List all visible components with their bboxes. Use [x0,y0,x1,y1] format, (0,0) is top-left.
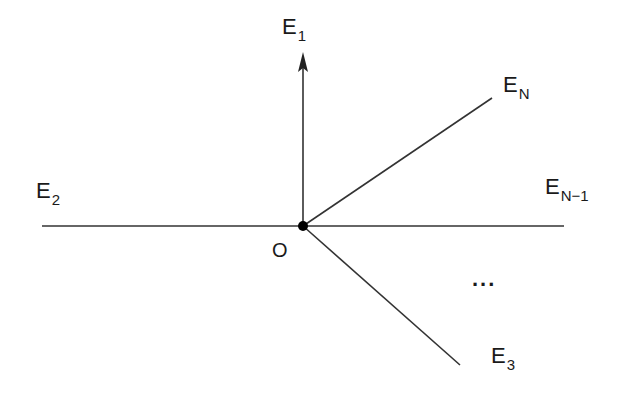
label-e2: E2 [36,180,60,207]
edge-en [303,98,492,226]
label-e1-base: E [282,14,297,39]
label-en-1: EN−1 [545,176,589,203]
label-e3-base: E [491,343,506,368]
diagram-canvas [0,0,618,401]
label-en: EN [503,74,530,101]
ellipsis-more-edges: ... [472,268,496,290]
star-graph-diagram: E1 E2 E3 EN−1 EN O ... [0,0,618,401]
label-en-1-sub: N−1 [561,187,589,204]
label-e1: E1 [282,16,306,43]
label-e2-sub: 2 [52,191,60,208]
label-e3: E3 [491,345,515,372]
label-en-base: E [503,72,518,97]
label-en-1-base: E [545,174,560,199]
edge-e3 [303,226,460,365]
label-en-sub: N [519,85,530,102]
label-e3-sub: 3 [507,356,515,373]
origin-label: O [272,240,288,260]
label-e1-sub: 1 [298,27,306,44]
origin-vertex [298,221,308,231]
label-e2-base: E [36,178,51,203]
